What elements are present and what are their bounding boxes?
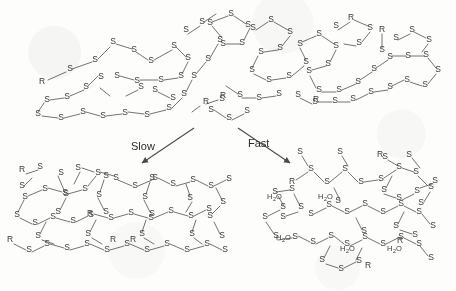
svg-text:S: S bbox=[277, 42, 283, 52]
svg-text:S: S bbox=[190, 174, 196, 184]
svg-text:S: S bbox=[276, 88, 282, 98]
svg-text:S: S bbox=[325, 58, 331, 68]
svg-text:S: S bbox=[435, 64, 441, 74]
svg-text:S: S bbox=[131, 44, 137, 54]
svg-text:S: S bbox=[14, 209, 20, 219]
svg-text:S: S bbox=[42, 183, 48, 193]
svg-text:S: S bbox=[306, 65, 312, 75]
svg-text:S: S bbox=[83, 81, 89, 91]
svg-text:S: S bbox=[371, 63, 377, 73]
svg-text:S: S bbox=[258, 46, 264, 56]
svg-text:S: S bbox=[244, 105, 250, 115]
svg-text:S: S bbox=[158, 74, 164, 84]
svg-text:S: S bbox=[316, 28, 322, 38]
svg-text:S: S bbox=[228, 8, 234, 18]
svg-text:S: S bbox=[337, 146, 343, 156]
svg-text:S: S bbox=[332, 95, 338, 105]
svg-text:S: S bbox=[310, 236, 316, 246]
reaction-scheme-figure: S S S S S S S S S S S S S S S S S S S S bbox=[0, 0, 456, 291]
svg-text:S: S bbox=[110, 36, 116, 46]
svg-text:S: S bbox=[114, 70, 120, 80]
svg-text:S: S bbox=[144, 244, 150, 254]
svg-text:S: S bbox=[108, 212, 114, 222]
svg-text:R: R bbox=[289, 176, 295, 186]
slow-label: Slow bbox=[131, 140, 155, 152]
svg-text:S: S bbox=[122, 107, 128, 117]
svg-text:S: S bbox=[139, 228, 145, 238]
svg-text:R: R bbox=[87, 208, 93, 218]
svg-text:S: S bbox=[379, 44, 385, 54]
svg-text:S: S bbox=[164, 238, 170, 248]
svg-text:S: S bbox=[92, 54, 98, 64]
svg-text:S: S bbox=[37, 161, 43, 171]
svg-text:S: S bbox=[84, 238, 90, 248]
svg-text:S: S bbox=[368, 86, 374, 96]
svg-text:S: S bbox=[35, 230, 41, 240]
svg-text:S: S bbox=[292, 231, 298, 241]
svg-text:S: S bbox=[262, 211, 268, 221]
svg-text:S: S bbox=[361, 225, 367, 235]
svg-text:S: S bbox=[168, 205, 174, 215]
svg-text:S: S bbox=[26, 244, 32, 254]
svg-text:S: S bbox=[398, 198, 404, 208]
svg-text:S: S bbox=[249, 64, 255, 74]
svg-text:R: R bbox=[379, 24, 385, 34]
svg-text:S: S bbox=[152, 84, 158, 94]
svg-text:S: S bbox=[222, 244, 228, 254]
svg-text:R: R bbox=[220, 90, 226, 100]
svg-text:S: S bbox=[358, 176, 364, 186]
svg-text:S: S bbox=[188, 210, 194, 220]
svg-text:S: S bbox=[187, 192, 193, 202]
svg-text:R: R bbox=[203, 96, 209, 106]
svg-text:S: S bbox=[142, 191, 148, 201]
svg-text:S: S bbox=[148, 55, 154, 65]
svg-text:S: S bbox=[80, 106, 86, 116]
reactant-cluster: S S S S S S S S S S S S S S S S S S S S bbox=[35, 8, 441, 122]
svg-text:S: S bbox=[171, 40, 177, 50]
svg-text:S: S bbox=[128, 207, 134, 217]
svg-text:S: S bbox=[67, 63, 73, 73]
svg-text:S: S bbox=[58, 167, 64, 177]
svg-text:S: S bbox=[166, 102, 172, 112]
svg-text:S: S bbox=[35, 108, 41, 118]
svg-text:S: S bbox=[381, 184, 387, 194]
svg-text:S: S bbox=[338, 263, 344, 273]
svg-text:R: R bbox=[110, 234, 116, 244]
svg-text:S: S bbox=[344, 206, 350, 216]
scheme-canvas: S S S S S S S S S S S S S S S S S S S S bbox=[0, 0, 456, 291]
svg-text:S: S bbox=[367, 22, 373, 32]
svg-text:R: R bbox=[130, 234, 136, 244]
svg-text:S: S bbox=[132, 180, 138, 190]
svg-text:O: O bbox=[285, 233, 291, 242]
svg-text:S: S bbox=[333, 20, 339, 30]
svg-text:S: S bbox=[412, 229, 418, 239]
svg-text:R: R bbox=[365, 260, 371, 270]
svg-text:S: S bbox=[356, 37, 362, 47]
svg-text:S: S bbox=[189, 228, 195, 238]
svg-text:S: S bbox=[426, 34, 432, 44]
svg-text:S: S bbox=[350, 93, 356, 103]
svg-text:H: H bbox=[318, 192, 323, 201]
svg-text:S: S bbox=[226, 112, 232, 122]
svg-text:S: S bbox=[170, 178, 176, 188]
svg-text:S: S bbox=[170, 92, 176, 102]
svg-text:S: S bbox=[138, 81, 144, 91]
svg-text:S: S bbox=[336, 84, 342, 94]
svg-text:S: S bbox=[208, 180, 214, 190]
svg-text:S: S bbox=[103, 206, 109, 216]
svg-text:S: S bbox=[409, 24, 415, 34]
svg-text:S: S bbox=[183, 24, 189, 34]
slow-atom-labels: S S S S S S S S S S S S S S S S S S S S bbox=[14, 161, 232, 254]
svg-text:S: S bbox=[380, 206, 386, 216]
svg-text:H: H bbox=[340, 244, 345, 253]
svg-text:S: S bbox=[287, 26, 293, 36]
svg-text:R: R bbox=[7, 234, 13, 244]
svg-text:R: R bbox=[348, 12, 354, 22]
svg-text:S: S bbox=[96, 189, 102, 199]
svg-text:S: S bbox=[319, 254, 325, 264]
svg-text:S: S bbox=[387, 81, 393, 91]
svg-text:S: S bbox=[207, 210, 213, 220]
svg-text:S: S bbox=[416, 238, 422, 248]
svg-text:H: H bbox=[276, 233, 281, 242]
svg-text:S: S bbox=[356, 255, 362, 265]
